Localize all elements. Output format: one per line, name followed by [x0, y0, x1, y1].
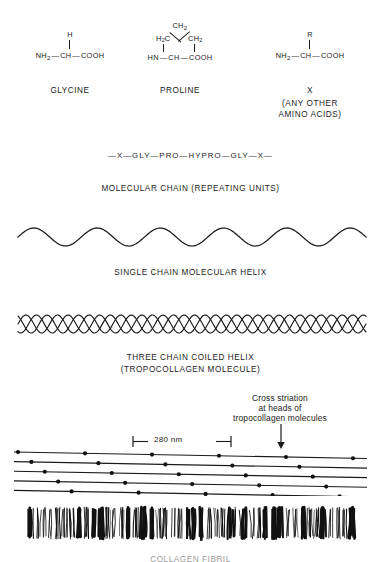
- molecular-chain-sequence: —X—GLY—PRO—HYPRO—GLY—X—: [0, 150, 381, 161]
- other-side-group: R: [250, 30, 370, 39]
- glycine-label: GLYCINE: [10, 85, 130, 96]
- molecular-chain-caption: MOLECULAR CHAIN (REPEATING UNITS): [0, 183, 381, 194]
- proline-ring-left: H2C: [156, 34, 170, 43]
- glycine-side-bond: [69, 40, 70, 49]
- single-chain-helix-caption: SINGLE CHAIN MOLECULAR HELIX: [0, 267, 381, 278]
- proline-ring-top: CH2: [120, 21, 240, 31]
- other-amino-acid-label: X: [250, 85, 370, 96]
- glycine-amine: NH2: [36, 51, 51, 60]
- proline-ring-right: CH2: [188, 34, 202, 43]
- collagen-fibril-caption: COLLAGEN FIBRIL: [0, 555, 381, 562]
- other-backbone: NH2 — CH — COOH: [250, 51, 370, 61]
- cross-striation-arrow: [270, 424, 294, 450]
- other-amino-acid-sublabel-2: AMINO ACIDS): [250, 109, 370, 120]
- other-side-bond: [309, 40, 310, 49]
- proline-backbone: HN — CH — COOH: [120, 53, 240, 62]
- fibril-packing-graphic: [14, 450, 367, 496]
- measurement-label: 280 nm: [154, 435, 182, 444]
- single-chain-helix-graphic: [18, 222, 366, 252]
- proline-bond-left-down: [163, 44, 164, 52]
- cross-striation-annotation-2: at heads of: [200, 403, 360, 413]
- glycine-backbone: NH2 — CH — COOH: [10, 51, 130, 61]
- other-amine: NH2: [276, 51, 291, 60]
- glycine-side-group: H: [10, 30, 130, 39]
- triple-helix-caption-1: THREE CHAIN COILED HELIX: [0, 352, 381, 363]
- other-amino-acid-sublabel-1: (ANY OTHER: [250, 98, 370, 109]
- measurement-bar: 280 nm: [132, 436, 232, 448]
- cross-striation-annotation-1: Cross striation: [200, 393, 360, 403]
- proline-label: PROLINE: [120, 85, 240, 96]
- collagen-fibril-band: [22, 503, 359, 545]
- proline-bond-right-down: [194, 44, 195, 52]
- triple-helix-caption-2: (TROPOCOLLAGEN MOLECULE): [0, 364, 381, 375]
- figure-canvas: H NH2 — CH — COOH GLYCINE CH2 H2C CH2 HN…: [0, 0, 381, 562]
- triple-helix-graphic: [18, 310, 366, 338]
- cross-striation-annotation-3: tropocollagen molecules: [200, 413, 360, 423]
